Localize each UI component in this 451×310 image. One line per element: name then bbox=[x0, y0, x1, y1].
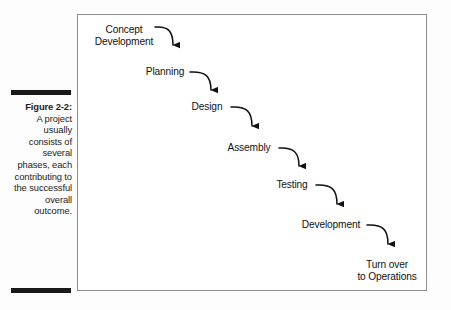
flow-node-planning: Planning bbox=[140, 66, 190, 78]
flow-node-label-line: Testing bbox=[269, 179, 315, 191]
flow-node-assembly: Assembly bbox=[221, 142, 277, 154]
figure-caption-block: Figure 2-2: A project usually consists o… bbox=[10, 90, 72, 217]
figure-page: Figure 2-2: A project usually consists o… bbox=[0, 0, 451, 310]
caption-rule-bottom bbox=[11, 288, 71, 293]
flow-node-label-line: Development bbox=[296, 219, 366, 231]
flow-node-label-line: Assembly bbox=[221, 142, 277, 154]
figure-number-label: Figure 2-2: bbox=[10, 101, 72, 113]
flow-node-label-line: Concept bbox=[88, 24, 160, 36]
figure-caption-body: A project usually consists of several ph… bbox=[10, 113, 72, 217]
flow-node-development: Development bbox=[296, 219, 366, 231]
flow-node-turn-over-to-operations: Turn over to Operations bbox=[345, 259, 429, 283]
flow-node-label-line: Turn over bbox=[345, 259, 429, 271]
flow-node-design: Design bbox=[184, 101, 230, 113]
flow-node-label-line: Planning bbox=[140, 66, 190, 78]
figure-caption-text: Figure 2-2: A project usually consists o… bbox=[10, 101, 72, 217]
caption-rule-top bbox=[11, 90, 71, 95]
flow-node-label-line: Development bbox=[88, 36, 160, 48]
flow-node-label-line: to Operations bbox=[345, 271, 429, 283]
flow-node-label-line: Design bbox=[184, 101, 230, 113]
flow-node-testing: Testing bbox=[269, 179, 315, 191]
flow-node-concept-development: Concept Development bbox=[88, 24, 160, 48]
